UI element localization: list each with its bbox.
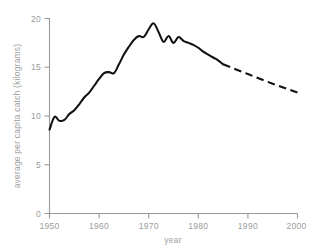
x-axis-ticks — [50, 214, 298, 219]
x-tick-label-1970: 1970 — [139, 221, 159, 231]
y-axis-ticks — [45, 19, 50, 214]
y-tick-label-15: 15 — [31, 62, 41, 72]
x-tick-label-1980: 1980 — [188, 221, 208, 231]
x-tick-label-1950: 1950 — [39, 221, 59, 231]
x-tick-label-1960: 1960 — [89, 221, 109, 231]
x-tick-label-2000: 2000 — [286, 221, 306, 231]
series-line-observed — [50, 23, 224, 129]
y-tick-label-0: 0 — [36, 209, 41, 219]
y-axis-title: average per capita catch (kilograms) — [12, 44, 22, 189]
x-axis-title: year — [164, 235, 181, 245]
y-tick-label-10: 10 — [31, 111, 41, 121]
y-tick-label-5: 5 — [36, 160, 41, 170]
chart-container: 0 5 10 15 20 1950 1960 1970 1980 1990 20… — [0, 0, 319, 251]
line-chart: 0 5 10 15 20 1950 1960 1970 1980 1990 20… — [0, 0, 319, 251]
series-line-projection — [223, 64, 297, 92]
x-tick-label-1990: 1990 — [238, 221, 258, 231]
y-tick-label-20: 20 — [31, 14, 41, 24]
